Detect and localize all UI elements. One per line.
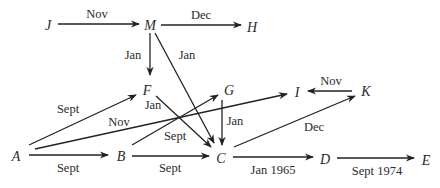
node-i: I <box>294 85 301 100</box>
edge-label-m-to-h: Dec <box>191 8 212 22</box>
node-e: E <box>421 153 431 168</box>
node-a: A <box>11 149 21 164</box>
edge-label-f-to-c: Jan <box>145 98 162 112</box>
edge-label-j-to-m: Nov <box>86 7 108 21</box>
diagram-canvas: NovDecJanJanJanSeptNovSeptSeptSeptJanDec… <box>0 0 440 188</box>
node-m: M <box>143 18 157 33</box>
edge-label-a-to-b: Sept <box>57 161 80 175</box>
node-d: D <box>319 152 330 167</box>
edge-arrow-c-to-k <box>234 96 355 147</box>
edge-label-m-to-f: Jan <box>125 48 142 62</box>
edges-layer <box>29 24 414 158</box>
edge-label-b-to-g: Sept <box>164 129 187 143</box>
node-f: F <box>142 83 152 98</box>
edge-label-c-to-d: Jan 1965 <box>251 163 296 177</box>
node-j: J <box>45 18 52 33</box>
edge-label-d-to-e: Sept 1974 <box>352 164 403 178</box>
node-c: C <box>216 151 226 166</box>
nodes-layer: JMHFGIKABCDE <box>11 18 431 168</box>
node-h: H <box>246 20 258 35</box>
edge-label-m-to-c: Jan <box>179 48 196 62</box>
edge-label-a-to-f: Sept <box>57 102 80 116</box>
edge-label-c-to-k: Dec <box>304 120 325 134</box>
node-g: G <box>224 83 234 98</box>
node-b: B <box>117 149 126 164</box>
node-k: K <box>360 84 371 99</box>
edge-label-b-to-c: Sept <box>159 161 182 175</box>
edge-label-g-to-c: Jan <box>227 114 244 128</box>
edge-label-k-to-i: Nov <box>320 74 342 88</box>
directed-graph: NovDecJanJanJanSeptNovSeptSeptSeptJanDec… <box>0 0 440 188</box>
edge-label-a-to-i: Nov <box>108 115 130 129</box>
